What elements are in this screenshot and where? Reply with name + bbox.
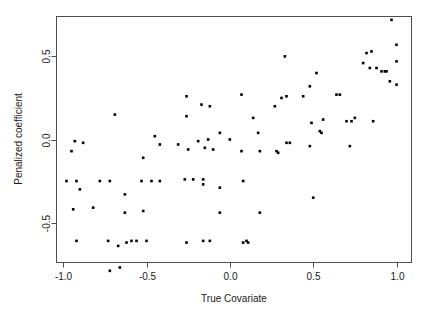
data-point bbox=[79, 188, 82, 191]
data-point bbox=[185, 95, 188, 98]
data-point bbox=[259, 211, 262, 214]
data-point bbox=[219, 211, 222, 214]
data-point bbox=[145, 240, 148, 243]
data-point bbox=[109, 180, 112, 183]
data-point bbox=[274, 105, 277, 108]
data-point bbox=[187, 148, 190, 151]
data-point bbox=[312, 196, 315, 199]
data-point bbox=[354, 117, 357, 120]
data-point bbox=[142, 210, 145, 213]
data-point bbox=[82, 142, 85, 145]
data-point bbox=[192, 178, 195, 181]
y-axis-title: Penalized coefficient bbox=[13, 93, 24, 185]
data-point bbox=[212, 148, 215, 151]
data-point bbox=[370, 50, 373, 53]
data-point bbox=[202, 178, 205, 181]
data-point bbox=[92, 206, 95, 209]
scatter-plot-figure: -1.0-0.50.00.51.0 -0.50.00.5 True Covari… bbox=[0, 0, 430, 313]
data-point bbox=[285, 142, 288, 145]
data-point bbox=[65, 180, 68, 183]
data-point bbox=[309, 85, 312, 88]
data-point bbox=[339, 93, 342, 96]
data-point bbox=[200, 103, 203, 106]
plot-background bbox=[0, 0, 430, 313]
data-point bbox=[289, 142, 292, 145]
data-point bbox=[185, 115, 188, 118]
data-point bbox=[159, 143, 162, 146]
data-point bbox=[247, 241, 250, 244]
data-point bbox=[130, 240, 133, 243]
data-point bbox=[390, 19, 393, 22]
data-point bbox=[202, 183, 205, 186]
data-point bbox=[252, 117, 255, 120]
data-point bbox=[362, 62, 365, 65]
data-point bbox=[74, 140, 77, 143]
data-point bbox=[209, 240, 212, 243]
data-point bbox=[302, 95, 305, 98]
data-point bbox=[185, 241, 188, 244]
x-tick-label: 0.5 bbox=[307, 271, 321, 282]
data-point bbox=[335, 93, 338, 96]
data-point bbox=[154, 135, 157, 138]
data-point bbox=[395, 60, 398, 63]
data-point bbox=[395, 43, 398, 46]
data-point bbox=[322, 118, 325, 121]
data-point bbox=[372, 120, 375, 123]
data-point bbox=[365, 52, 368, 55]
data-point bbox=[284, 55, 287, 58]
x-tick-label: 0.0 bbox=[224, 271, 238, 282]
x-tick-label: -1.0 bbox=[55, 271, 73, 282]
data-point bbox=[159, 180, 162, 183]
data-point bbox=[345, 120, 348, 123]
data-point bbox=[197, 140, 200, 143]
data-point bbox=[389, 80, 392, 83]
data-point bbox=[184, 178, 187, 181]
data-point bbox=[150, 180, 153, 183]
data-point bbox=[380, 70, 383, 73]
data-point bbox=[124, 211, 127, 214]
data-point bbox=[207, 138, 210, 141]
y-tick-label: -0.5 bbox=[41, 214, 52, 232]
data-point bbox=[350, 120, 353, 123]
data-point bbox=[240, 93, 243, 96]
y-tick-label: 0.5 bbox=[41, 49, 52, 63]
data-point bbox=[119, 266, 122, 269]
x-tick-label: 1.0 bbox=[391, 271, 405, 282]
data-point bbox=[315, 72, 318, 75]
y-tick-label: 0.0 bbox=[41, 133, 52, 147]
data-point bbox=[177, 143, 180, 146]
data-point bbox=[117, 245, 120, 248]
data-point bbox=[114, 113, 117, 116]
data-point bbox=[240, 150, 243, 153]
data-point bbox=[369, 67, 372, 70]
data-point bbox=[309, 145, 312, 148]
data-point bbox=[349, 145, 352, 148]
data-point bbox=[204, 147, 207, 150]
data-point bbox=[375, 67, 378, 70]
data-point bbox=[310, 122, 313, 125]
x-tick-label: -0.5 bbox=[139, 271, 157, 282]
data-point bbox=[219, 186, 222, 189]
data-point bbox=[202, 240, 205, 243]
data-point bbox=[72, 208, 75, 211]
data-point bbox=[75, 240, 78, 243]
data-point bbox=[125, 241, 128, 244]
data-point bbox=[109, 270, 112, 273]
data-point bbox=[140, 180, 143, 183]
data-point bbox=[219, 132, 222, 135]
data-point bbox=[395, 83, 398, 86]
x-axis-title: True Covariate bbox=[201, 293, 267, 304]
data-point bbox=[124, 193, 127, 196]
data-point bbox=[242, 180, 245, 183]
data-point bbox=[320, 132, 323, 135]
data-point bbox=[142, 156, 145, 159]
data-point bbox=[257, 132, 260, 135]
data-point bbox=[385, 70, 388, 73]
data-point bbox=[277, 152, 280, 155]
data-point bbox=[209, 105, 212, 108]
data-point bbox=[70, 150, 73, 153]
data-point bbox=[285, 95, 288, 98]
plot-canvas: -1.0-0.50.00.51.0 -0.50.00.5 True Covari… bbox=[0, 0, 430, 313]
data-point bbox=[280, 97, 283, 100]
data-point bbox=[135, 240, 138, 243]
